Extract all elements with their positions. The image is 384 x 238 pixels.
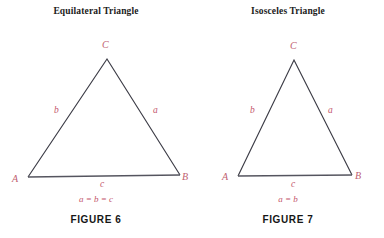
figure-panel-equilateral: Equilateral Triangle C A B b a c a = b =… [0, 0, 192, 238]
side-label-a: a [328, 106, 333, 116]
figure-caption-7: FIGURE 7 [192, 214, 384, 225]
side-label-c: c [100, 180, 104, 190]
triangle-base-line [28, 175, 180, 177]
side-label-a: a [153, 106, 158, 116]
figure-caption-6: FIGURE 6 [0, 214, 192, 225]
figure-panel-isosceles: Isosceles Triangle C A B b a c a = b FIG… [192, 0, 384, 238]
side-label-b: b [54, 106, 59, 116]
vertex-label-c: C [290, 41, 297, 51]
vertex-label-a: A [222, 172, 228, 182]
vertex-label-c: C [102, 40, 109, 50]
relation-equation-equilateral: a = b = c [0, 194, 192, 204]
relation-equation-isosceles: a = b [192, 194, 384, 204]
vertex-label-a: A [12, 174, 18, 184]
side-label-b: b [250, 106, 255, 116]
vertex-label-b: B [182, 172, 188, 182]
triangle-base-line [238, 175, 352, 176]
side-label-c: c [291, 180, 295, 190]
vertex-label-b: B [355, 171, 361, 181]
triangle-legs-path [238, 60, 352, 176]
triangle-legs-path [28, 59, 180, 177]
